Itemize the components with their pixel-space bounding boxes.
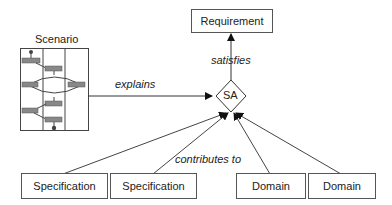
requirement-node: Requirement <box>191 9 273 33</box>
domain-node-1: Domain <box>236 173 306 199</box>
specification-node-2: Specification <box>110 173 197 199</box>
contributes-label: contributes to <box>175 153 241 165</box>
sa-label: SA <box>223 89 238 101</box>
explains-label: explains <box>115 78 155 90</box>
satisfies-label: satisfies <box>211 54 251 66</box>
specification-node-1: Specification <box>21 173 108 199</box>
scenario-diagram <box>21 49 89 131</box>
scenario-label: Scenario <box>35 33 78 45</box>
domain-node-2: Domain <box>308 173 376 199</box>
